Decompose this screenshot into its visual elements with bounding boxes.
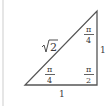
- angle-bottom-right: π 2: [84, 65, 94, 85]
- angle-top-right: π 4: [84, 25, 94, 45]
- hypotenuse-label: 2: [42, 40, 58, 54]
- angle-bl-den: 4: [47, 76, 52, 85]
- right-triangle-diagram: 2 π 4 π 4 π 2 1 1: [0, 0, 109, 106]
- hypotenuse-value: 2: [50, 41, 57, 54]
- base-label: 1: [59, 89, 65, 99]
- angle-tr-num: π: [86, 25, 91, 34]
- angle-bottom-left: π 4: [45, 65, 55, 85]
- angle-tr-den: 4: [86, 36, 91, 45]
- angle-bl-num: π: [47, 65, 52, 74]
- angle-br-den: 2: [86, 76, 91, 85]
- angle-br-num: π: [86, 65, 91, 74]
- height-label: 1: [100, 45, 106, 55]
